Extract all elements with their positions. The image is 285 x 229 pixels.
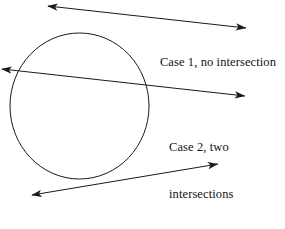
case-1-label: Case 1, no intersection — [147, 39, 276, 86]
case-1-line — [48, 6, 246, 28]
line-circle-intersection-figure: Case 1, no intersection Case 2, two inte… — [0, 0, 285, 229]
case-2-label-line-1: Case 2, two — [169, 140, 233, 156]
case-1-label-text: Case 1, no intersection — [160, 55, 276, 69]
case-3-label-line-1: Case 3, tangent, one — [119, 226, 222, 229]
case-3-label: Case 3, tangent, one intersection — [119, 195, 222, 229]
circle — [10, 33, 149, 179]
